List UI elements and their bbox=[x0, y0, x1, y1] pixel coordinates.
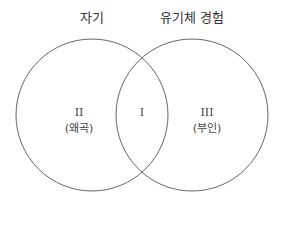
region-numeral: II bbox=[65, 105, 94, 121]
region-numeral: III bbox=[193, 105, 222, 121]
region-numeral: I bbox=[140, 105, 144, 121]
region-label: (부인) bbox=[193, 121, 222, 137]
region-denial: III (부인) bbox=[193, 105, 222, 137]
region-distortion: II (왜곡) bbox=[65, 105, 94, 137]
region-intersection: I bbox=[140, 105, 144, 121]
region-label: (왜곡) bbox=[65, 121, 94, 137]
